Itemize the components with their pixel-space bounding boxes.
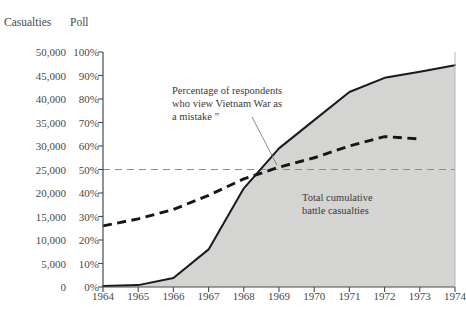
poll-annotation-leader-line (252, 117, 277, 165)
poll-annotation: Percentage of respondents who view Vietn… (172, 84, 282, 124)
poll-annotation-line-1: Percentage of respondents (172, 85, 282, 96)
casualties-annotation-line-2: battle casualties (302, 205, 369, 216)
casualties-annotation-line-1: Total cumulative (302, 192, 373, 203)
casualties-annotation: Total cumulative battle casualties (302, 191, 373, 217)
poll-annotation-line-2: who view Vietnam War as (172, 98, 282, 109)
poll-annotation-line-3: a mistake ” (172, 111, 219, 122)
